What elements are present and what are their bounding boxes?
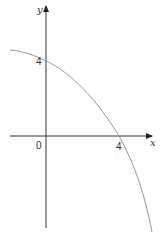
y-intercept-label: 4 (36, 56, 42, 67)
function-graph: y x 0 4 4 (0, 0, 164, 237)
x-axis-label: x (150, 137, 156, 148)
y-axis-label: y (36, 4, 43, 15)
function-curve (10, 50, 152, 232)
x-intercept-label: 4 (116, 141, 122, 152)
origin-label: 0 (36, 140, 42, 151)
